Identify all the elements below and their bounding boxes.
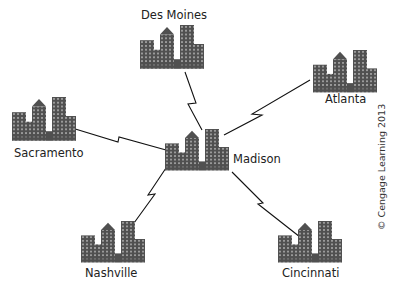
label-sacramento: Sacramento [14, 146, 84, 160]
label-cincinnati: Cincinnati [282, 266, 339, 280]
link-madison-des-moines [185, 72, 202, 130]
link-madison-sacramento [72, 128, 166, 150]
city-icon-des-moines [140, 25, 204, 69]
city-icon-madison [165, 129, 229, 170]
copyright-credit: © Cengage Learning 2013 [376, 104, 387, 230]
city-icon-atlanta [313, 50, 377, 92]
label-madison: Madison [233, 152, 281, 166]
link-madison-atlanta [224, 80, 310, 135]
link-madison-nashville [134, 165, 168, 223]
label-des-moines: Des Moines [141, 8, 207, 22]
city-icon-sacramento [12, 97, 76, 141]
link-madison-cincinnati [232, 172, 300, 237]
network-diagram: Des Moines Atlanta Sacramento Madison Na… [0, 0, 393, 292]
label-nashville: Nashville [85, 266, 137, 280]
label-atlanta: Atlanta [325, 92, 366, 106]
city-icon-nashville [81, 221, 145, 262]
